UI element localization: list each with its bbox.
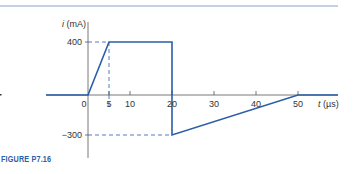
margin-dot xyxy=(0,94,2,96)
x-axis-label: t (µs) xyxy=(318,99,339,109)
ytick-400: 400 xyxy=(67,37,82,47)
dashed-guides xyxy=(88,42,172,135)
xtick-0: 0 xyxy=(81,99,86,109)
xtick-40: 40 xyxy=(251,99,261,109)
xtick-10: 10 xyxy=(125,99,135,109)
xtick-50: 50 xyxy=(293,99,303,109)
xtick-30: 30 xyxy=(209,99,219,109)
figure-caption: FIGURE P7.16 xyxy=(1,154,51,164)
current-waveform xyxy=(46,42,338,135)
ytick-neg300: −300 xyxy=(62,130,82,140)
xtick-5: 5 xyxy=(106,99,111,109)
y-axis-label: i (mA) xyxy=(62,19,86,29)
figure-p7-16: 400 −300 0 5 10 20 30 40 50 i (mA) t (µs… xyxy=(0,0,357,174)
xtick-20: 20 xyxy=(167,99,177,109)
